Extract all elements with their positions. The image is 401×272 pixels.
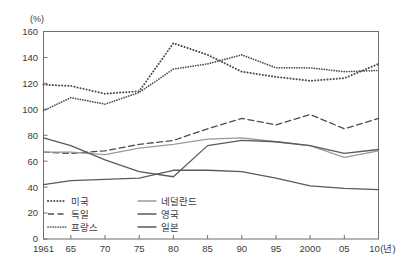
x-axis-tick-label: 75 bbox=[134, 243, 145, 254]
x-axis-tick-label: 70 bbox=[100, 243, 111, 254]
x-axis-tick-label: 80 bbox=[168, 243, 179, 254]
chart-container: (%) 020406080100120140160 19616570758085… bbox=[0, 0, 401, 272]
x-axis-tick-label: 90 bbox=[236, 243, 247, 254]
legend-item-0: 미국 bbox=[48, 196, 89, 207]
series-line-3 bbox=[44, 138, 379, 157]
y-axis-tick-label: 60 bbox=[27, 156, 38, 167]
series-lines bbox=[44, 43, 379, 190]
legend-item-1: 독일 bbox=[48, 209, 89, 220]
line-chart: (%) 020406080100120140160 19616570758085… bbox=[0, 0, 401, 272]
x-axis-tick-label: 05 bbox=[339, 243, 350, 254]
legend-label-1: 독일 bbox=[71, 209, 89, 220]
legend-label-2: 프랑스 bbox=[71, 222, 98, 233]
x-axis-tick-label: 65 bbox=[66, 243, 77, 254]
y-axis-tick-labels: 020406080100120140160 bbox=[22, 26, 38, 245]
chart-legend: 미국독일프랑스네덜란드영국일본 bbox=[48, 196, 197, 233]
y-axis-tick-label: 160 bbox=[22, 26, 38, 37]
legend-label-4: 영국 bbox=[161, 209, 179, 220]
legend-label-3: 네덜란드 bbox=[161, 196, 197, 207]
x-axis-tick-label: 10 bbox=[369, 243, 380, 254]
series-line-0 bbox=[44, 43, 379, 94]
legend-label-5: 일본 bbox=[161, 222, 179, 233]
series-line-1 bbox=[44, 115, 379, 154]
legend-item-4: 영국 bbox=[138, 209, 179, 220]
y-axis-tick-label: 40 bbox=[27, 182, 38, 193]
y-axis-tick-label: 20 bbox=[27, 207, 38, 218]
legend-item-5: 일본 bbox=[138, 222, 179, 233]
x-axis-tick-marks bbox=[44, 235, 379, 239]
y-axis-tick-label: 120 bbox=[22, 78, 38, 89]
series-line-5 bbox=[44, 170, 379, 189]
series-line-2 bbox=[44, 55, 379, 111]
x-axis-tick-label: 1961 bbox=[33, 243, 54, 254]
y-axis-tick-label: 80 bbox=[27, 130, 38, 141]
legend-item-2: 프랑스 bbox=[48, 222, 98, 233]
x-axis-tick-label: 2000 bbox=[300, 243, 321, 254]
x-axis-tick-labels: 19616570758085909520000510 bbox=[33, 243, 380, 254]
y-axis-tick-label: 100 bbox=[22, 104, 38, 115]
x-axis-tick-label: 95 bbox=[271, 243, 282, 254]
y-axis-tick-label: 140 bbox=[22, 52, 38, 63]
y-axis-unit-label: (%) bbox=[30, 14, 44, 24]
legend-item-3: 네덜란드 bbox=[138, 196, 197, 207]
legend-label-0: 미국 bbox=[71, 196, 89, 207]
x-axis-tick-label: 85 bbox=[202, 243, 213, 254]
x-axis-unit-label: (년) bbox=[380, 243, 395, 254]
